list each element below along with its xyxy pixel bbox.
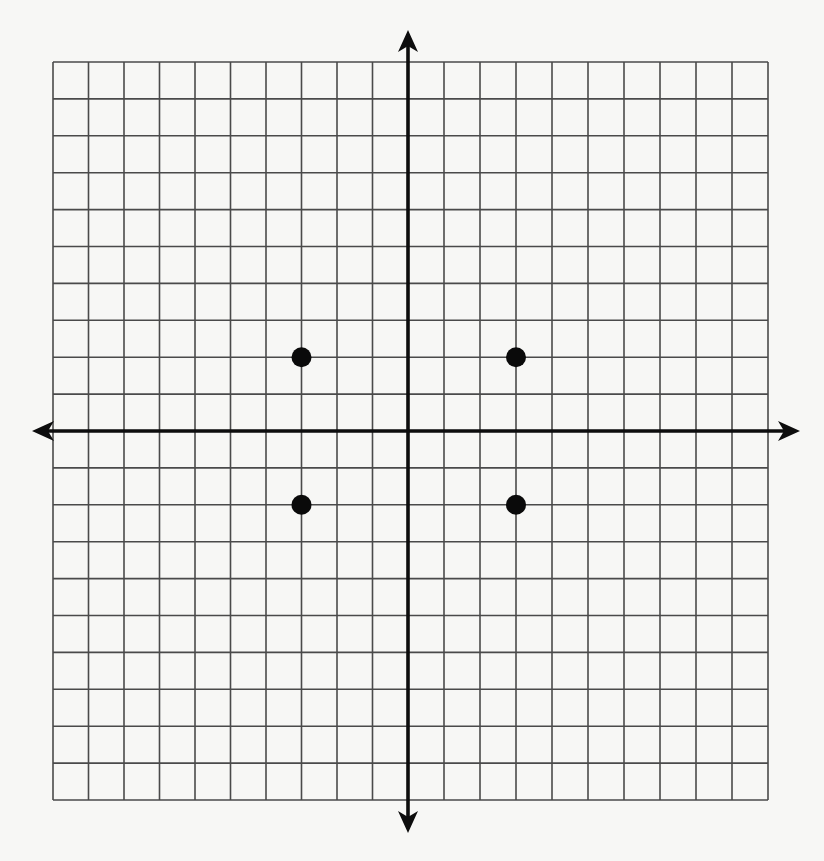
point-marker: [292, 347, 312, 367]
axes: [32, 30, 800, 833]
point-marker: [292, 495, 312, 515]
point-marker: [506, 347, 526, 367]
coordinate-plane: [0, 0, 824, 861]
point-marker: [506, 495, 526, 515]
